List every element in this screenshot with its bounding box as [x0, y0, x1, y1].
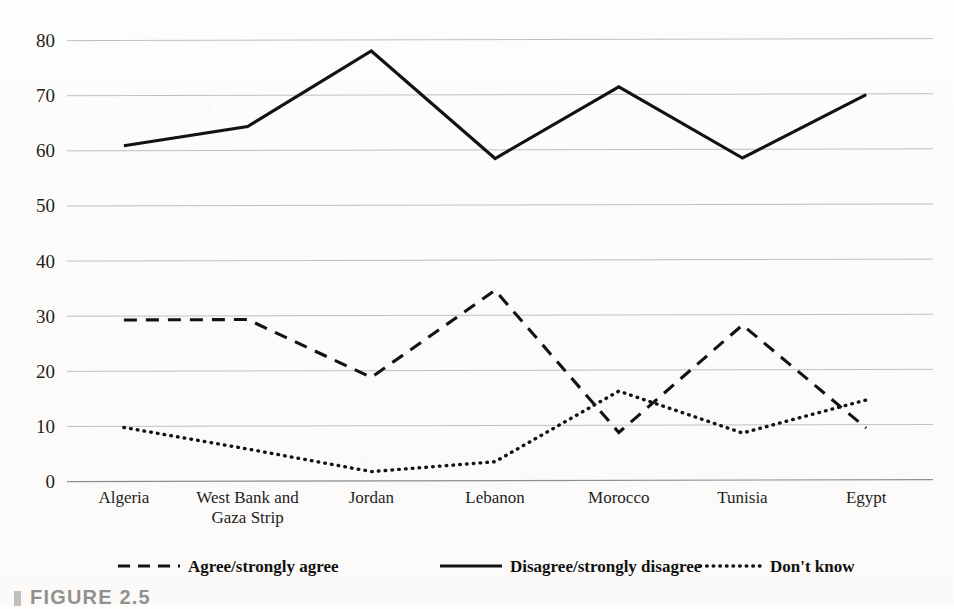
x-tick-label-4: Morocco: [588, 488, 649, 507]
gridline-40: [67, 259, 933, 261]
x-tick-label-6: Egypt: [846, 488, 887, 507]
data-series-group: [124, 51, 866, 472]
x-tick-label-3: Lebanon: [465, 488, 525, 507]
series-line-2: [124, 391, 866, 472]
caption-text: FIGURE 2.5: [30, 586, 151, 608]
gridline-0: [67, 480, 933, 482]
gridline-70: [67, 94, 933, 96]
gridline-80: [67, 39, 933, 41]
y-tick-label-80: 80: [36, 30, 55, 51]
gridline-60: [67, 149, 933, 151]
legend-item-1[interactable]: Disagree/strongly disagree: [440, 557, 702, 576]
chart-legend: Agree/strongly agreeDisagree/strongly di…: [118, 557, 855, 576]
series-line-1: [124, 51, 866, 159]
x-tick-label-0: Algeria: [98, 488, 149, 507]
legend-item-0[interactable]: Agree/strongly agree: [118, 557, 339, 576]
y-axis-tick-labels: 80706050403020100: [36, 30, 55, 492]
legend-label-1: Disagree/strongly disagree: [510, 557, 702, 576]
y-tick-label-70: 70: [36, 85, 55, 106]
figure-caption: FIGURE 2.5: [14, 586, 151, 609]
gridline-10: [67, 424, 933, 426]
x-tick-label-2: Jordan: [349, 488, 395, 507]
y-tick-label-30: 30: [36, 306, 55, 327]
y-tick-label-0: 0: [46, 471, 56, 492]
y-tick-label-40: 40: [36, 251, 55, 272]
legend-label-2: Don't know: [770, 557, 855, 576]
gridline-20: [67, 369, 933, 371]
y-tick-label-60: 60: [36, 140, 55, 161]
legend-label-0: Agree/strongly agree: [188, 557, 339, 576]
legend-item-2[interactable]: Don't know: [700, 557, 855, 576]
gridline-50: [67, 204, 933, 206]
gridline-30: [67, 314, 933, 316]
y-tick-label-10: 10: [36, 416, 55, 437]
x-tick-label-1: West Bank andGaza Strip: [196, 488, 299, 527]
caption-marker: [14, 591, 21, 606]
series-line-0: [124, 290, 866, 432]
gridlines-group: [67, 39, 933, 482]
x-axis-tick-labels: AlgeriaWest Bank andGaza StripJordanLeba…: [98, 488, 886, 527]
x-tick-label-5: Tunisia: [717, 488, 768, 507]
y-tick-label-20: 20: [36, 361, 55, 382]
y-tick-label-50: 50: [36, 195, 55, 216]
